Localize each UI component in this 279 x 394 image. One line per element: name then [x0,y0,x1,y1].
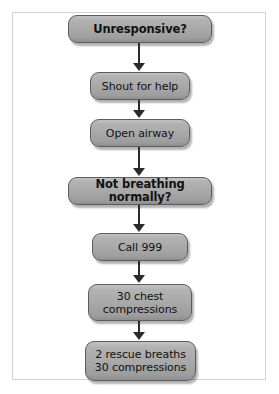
flow-node-label: Not breathing normally? [69,178,211,204]
flow-node-shout-for-help[interactable]: Shout for help [90,72,190,100]
flow-node-label: 30 chest compressions [97,290,183,316]
arrow-down-icon [133,332,145,340]
arrow-down-icon [133,224,145,232]
flow-node-label: Unresponsive? [87,23,193,36]
flow-node-unresponsive[interactable]: Unresponsive? [68,15,212,43]
flow-node-open-airway[interactable]: Open airway [90,119,190,147]
connector-chest-compressions-to-rescue-breaths [138,321,140,332]
flow-node-label: Open airway [100,127,180,140]
flow-node-label: Shout for help [96,80,184,93]
flow-node-label: Call 999 [112,241,168,254]
connector-open-airway-to-not-breathing [138,147,140,168]
flow-node-rescue-breaths[interactable]: 2 rescue breaths 30 compressions [85,341,196,381]
connector-call-999-to-chest-compressions [138,261,140,276]
flow-node-label: 2 rescue breaths 30 compressions [89,348,192,374]
flow-node-chest-compressions[interactable]: 30 chest compressions [88,284,192,321]
arrow-down-icon [133,275,145,283]
arrow-down-icon [133,110,145,118]
connector-not-breathing-to-call-999 [138,205,140,224]
flow-node-call-999[interactable]: Call 999 [92,233,188,261]
arrow-down-icon [133,168,145,176]
connector-unresponsive-to-shout-for-help [138,43,140,64]
flow-node-not-breathing-normally[interactable]: Not breathing normally? [68,177,212,205]
resuscitation-flowchart: Unresponsive? Shout for help Open airway… [0,0,279,394]
arrow-down-icon [133,63,145,71]
